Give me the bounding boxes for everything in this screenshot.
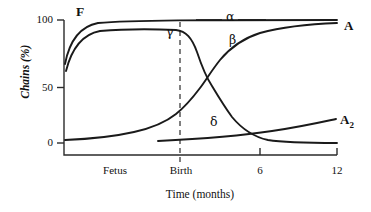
x-tick-label-6: 6: [245, 165, 275, 176]
x-axis-title: Time (months): [140, 189, 260, 201]
hemoglobin-f-label: F: [76, 5, 84, 19]
hemoglobin-a2-letter: A: [340, 112, 349, 127]
x-tick-label-birth: Birth: [152, 165, 210, 176]
y-tick-label-100: 100: [20, 14, 53, 25]
curve-beta: [65, 23, 337, 140]
chart-plot-area: [0, 0, 371, 212]
hemoglobin-a-label: A: [344, 19, 353, 32]
series-label-beta: β: [229, 34, 236, 47]
hemoglobin-a2-label: A2: [340, 113, 354, 130]
y-axis-ticks: [57, 20, 64, 143]
series-label-alpha: α: [226, 11, 234, 24]
x-tick-label-12: 12: [322, 165, 352, 176]
hemoglobin-a2-subscript: 2: [349, 120, 354, 130]
x-region-label-fetus: Fetus: [85, 165, 145, 176]
x-axis-ticks: [260, 148, 337, 155]
y-axis-title: Chains (%): [20, 35, 32, 109]
series-label-gamma: γ: [166, 26, 173, 39]
series-label-delta: δ: [210, 116, 218, 129]
y-tick-label-0: 0: [20, 137, 53, 148]
y-tick-label-50: 50: [20, 82, 53, 93]
chart-figure: Chains (%) 100 50 0 Fetus Birth 6 12 Tim…: [0, 0, 371, 212]
